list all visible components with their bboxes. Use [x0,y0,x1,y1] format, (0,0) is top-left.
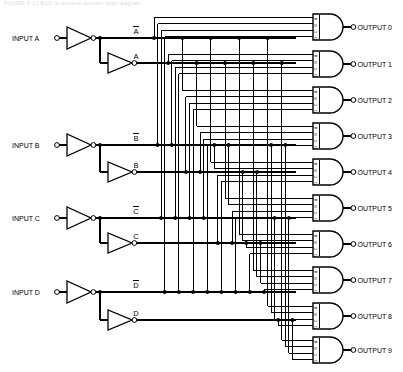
rail-label-D-bar: D [133,281,139,290]
tap-g2-t2 [188,216,192,220]
tap-g5-t0 [223,61,227,65]
output-pin-8 [351,314,356,319]
output-label-5: OUTPUT 5 [358,205,393,212]
input-pin-1 [55,143,60,148]
output-pin-7 [351,278,356,283]
tap-g7-t3 [262,290,266,294]
tap-g3-t2 [202,216,206,220]
inverter-second-3 [108,310,132,330]
inverter-first-0-bubble [91,36,96,41]
inverter-first-3-bubble [91,290,96,295]
tap-g1-t2 [173,216,177,220]
rail-label-A: A [133,52,138,61]
input-label-2: INPUT C [12,215,40,222]
input-pin-3 [55,290,60,295]
output-label-1: OUTPUT 1 [358,61,393,68]
tap-g4-t3 [220,290,224,294]
inverter-second-2 [108,233,132,253]
output-pin-6 [351,242,356,247]
rail-label-A-bar: A [133,27,138,36]
output-pin-0 [351,25,356,30]
inverter-second-0 [108,53,132,73]
output-label-6: OUTPUT 6 [358,241,393,248]
output-label-2: OUTPUT 2 [358,97,393,104]
output-label-8: OUTPUT 8 [358,313,393,320]
inverter-first-1 [67,134,91,156]
tap-g8-t2 [273,216,277,220]
output-pin-5 [351,206,356,211]
schematic-svg: ABCDABCDABCDABCDABCDABCDABCDABCDABCDABCD… [0,0,403,372]
output-pin-2 [351,98,356,103]
inverter-second-1 [108,162,132,182]
rail-label-C: C [133,232,139,241]
tap-g0-t0 [152,36,156,40]
tap-g6-t3 [248,290,252,294]
input-label-0: INPUT A [12,35,39,42]
tap-g8-t0 [266,36,270,40]
tap-g7-t2 [259,241,263,245]
tap-g9-t2 [287,216,291,220]
routing-matrix-group [152,17,303,360]
and-gate-group: ABCDABCDABCDABCDABCDABCDABCDABCDABCDABCD [303,14,356,363]
tap-g0-t1 [156,143,160,147]
tap-g0-t2 [159,216,163,220]
output-pin-3 [351,134,356,139]
tap-g0-t3 [163,290,167,294]
tap-g4-t2 [216,241,220,245]
input-stage-group [55,27,143,330]
tap-g2-t3 [191,290,195,294]
tap-g1-t0 [166,61,170,65]
inverter-second-1-bubble [132,170,137,175]
tap-g6-t0 [237,36,241,40]
inverter-first-0 [67,27,91,49]
rail-label-C-bar: C [133,207,139,216]
input-pin-2 [55,216,60,221]
inverter-second-0-bubble [132,61,137,66]
tap-g6-t2 [244,241,248,245]
output-pin-4 [351,170,356,175]
input-label-1: INPUT B [12,142,40,149]
tap-g5-t1 [227,143,231,147]
signal-rail-group [100,38,296,320]
inverter-first-2 [67,207,91,229]
tap-g2-t1 [184,170,188,174]
tap-g3-t3 [205,290,209,294]
tap-g5-t2 [230,241,234,245]
output-label-3: OUTPUT 3 [358,133,393,140]
tap-g4-t1 [212,143,216,147]
tap-g6-t1 [241,170,245,174]
tap-g5-t3 [234,290,238,294]
inverter-first-2-bubble [91,216,96,221]
rail-label-B-bar: B [133,134,138,143]
rail-label-B: B [133,161,138,170]
output-pin-9 [351,348,356,353]
tap-g4-t0 [209,36,213,40]
input-label-3: INPUT D [12,289,40,296]
tap-g3-t0 [195,61,199,65]
circuit-diagram-canvas: FIGURE 9-13 BCD-to-decimal decoder logic… [0,0,403,372]
inverter-second-2-bubble [132,241,137,246]
inverter-first-1-bubble [91,143,96,148]
inverter-second-3-bubble [132,318,137,323]
tap-g7-t0 [252,61,256,65]
tap-g2-t0 [181,36,185,40]
tap-g8-t1 [269,143,273,147]
tap-g8-t3 [276,318,280,322]
tap-g3-t1 [198,170,202,174]
output-label-4: OUTPUT 4 [358,169,393,176]
output-label-0: OUTPUT 0 [358,24,393,31]
input-pin-0 [55,36,60,41]
tap-g7-t1 [255,170,259,174]
output-label-9: OUTPUT 9 [358,347,393,354]
figure-caption: FIGURE 9-13 BCD-to-decimal decoder logic… [4,0,141,6]
tap-g9-t3 [291,318,295,322]
tap-g1-t3 [177,290,181,294]
tap-g9-t1 [283,143,287,147]
inverter-first-3 [67,281,91,303]
output-label-7: OUTPUT 7 [358,277,393,284]
output-pin-1 [351,62,356,67]
tap-g9-t0 [280,61,284,65]
rail-label-D: D [133,309,139,318]
tap-g1-t1 [170,143,174,147]
